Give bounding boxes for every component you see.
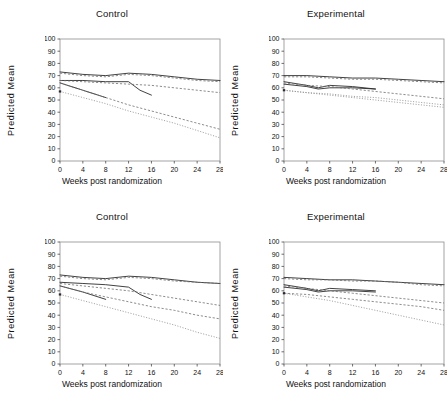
x-tick-label: 24	[417, 166, 425, 173]
x-axis-label: Weeks post randomization	[0, 379, 224, 389]
y-tick-label: 30	[272, 324, 280, 331]
y-axis-label: Predicted Mean	[4, 40, 18, 160]
y-tick-label: 70	[272, 275, 280, 282]
x-tick-label: 4	[305, 166, 309, 173]
x-tick-label: 12	[125, 166, 133, 173]
y-tick-label: 50	[48, 96, 56, 103]
y-tick-label: 70	[48, 275, 56, 282]
plot-svg: 01020304050607080901000481216202428	[45, 36, 223, 176]
x-tick-label: 28	[216, 166, 223, 173]
plot-frame	[284, 39, 444, 161]
y-tick-label: 70	[272, 72, 280, 79]
panel-title: Control	[0, 8, 224, 19]
series-line-curve-1-solid	[60, 72, 220, 81]
x-tick-label: 16	[148, 369, 156, 376]
y-tick-label: 10	[272, 145, 280, 152]
y-tick-label: 60	[48, 287, 56, 294]
panel-title: Control	[0, 211, 224, 222]
plot-svg: 01020304050607080901000481216202428	[269, 36, 447, 176]
y-tick-label: 20	[272, 133, 280, 140]
origin-marker	[59, 90, 61, 92]
x-tick-label: 0	[58, 369, 62, 376]
x-tick-label: 8	[104, 166, 108, 173]
y-tick-label: 70	[48, 72, 56, 79]
y-tick-label: 0	[276, 360, 280, 367]
x-tick-label: 20	[394, 369, 402, 376]
x-axis-label: Weeks post randomization	[224, 379, 448, 389]
origin-marker	[283, 89, 285, 91]
x-tick-label: 24	[193, 166, 201, 173]
y-tick-label: 30	[48, 324, 56, 331]
y-tick-label: 40	[272, 109, 280, 116]
x-tick-label: 28	[440, 166, 447, 173]
figure-grid: ControlPredicted MeanWeeks post randomiz…	[0, 0, 448, 406]
y-tick-label: 90	[48, 48, 56, 55]
series-line-curve-1-solid	[284, 76, 444, 82]
series-line-curve-4-solid-dip	[284, 287, 375, 292]
y-tick-label: 40	[272, 312, 280, 319]
x-tick-label: 8	[328, 369, 332, 376]
series-line-curve-7-dotted	[60, 294, 220, 338]
y-tick-label: 60	[48, 84, 56, 91]
panel-title: Experimental	[224, 8, 448, 19]
y-tick-label: 10	[272, 348, 280, 355]
x-tick-label: 0	[282, 166, 286, 173]
x-tick-label: 12	[349, 369, 357, 376]
y-tick-label: 80	[48, 60, 56, 67]
x-tick-label: 20	[170, 369, 178, 376]
plot-area: 01020304050607080901000481216202428	[269, 239, 429, 361]
x-tick-label: 8	[328, 166, 332, 173]
x-tick-label: 28	[216, 369, 223, 376]
y-tick-label: 80	[272, 263, 280, 270]
y-tick-label: 90	[48, 251, 56, 258]
panel-bottom-left: ControlPredicted MeanWeeks post randomiz…	[0, 203, 224, 406]
y-tick-label: 30	[272, 121, 280, 128]
origin-marker	[283, 292, 285, 294]
panel-title: Experimental	[224, 211, 448, 222]
plot-frame	[284, 242, 444, 364]
y-tick-label: 20	[48, 336, 56, 343]
x-tick-label: 28	[440, 369, 447, 376]
y-tick-label: 30	[48, 121, 56, 128]
y-tick-label: 80	[48, 263, 56, 270]
y-axis-label: Predicted Mean	[228, 243, 242, 363]
panel-top-right: ExperimentalPredicted MeanWeeks post ran…	[224, 0, 448, 203]
plot-area: 01020304050607080901000481216202428	[45, 36, 205, 158]
panel-top-left: ControlPredicted MeanWeeks post randomiz…	[0, 0, 224, 203]
x-tick-label: 24	[193, 369, 201, 376]
plot-frame	[60, 242, 220, 364]
series-line-curve-5-dashed	[284, 83, 444, 99]
x-tick-label: 12	[349, 166, 357, 173]
y-tick-label: 100	[45, 36, 56, 42]
y-tick-label: 20	[48, 133, 56, 140]
series-line-curve-7-dotted	[284, 293, 444, 325]
y-tick-label: 100	[269, 36, 280, 42]
x-tick-label: 0	[58, 166, 62, 173]
y-tick-label: 50	[272, 299, 280, 306]
x-tick-label: 0	[282, 369, 286, 376]
y-tick-label: 50	[48, 299, 56, 306]
y-tick-label: 100	[45, 239, 56, 245]
origin-marker	[59, 293, 61, 295]
x-tick-label: 16	[372, 369, 380, 376]
y-tick-label: 10	[48, 348, 56, 355]
x-tick-label: 8	[104, 369, 108, 376]
series-line-curve-6-dashed	[60, 286, 220, 319]
y-tick-label: 50	[272, 96, 280, 103]
x-axis-label: Weeks post randomization	[224, 176, 448, 186]
y-axis-label: Predicted Mean	[4, 243, 18, 363]
x-tick-label: 16	[148, 166, 156, 173]
y-tick-label: 60	[272, 287, 280, 294]
series-line-curve-5-solid-truncated	[60, 286, 106, 299]
x-tick-label: 4	[81, 369, 85, 376]
x-tick-label: 4	[81, 166, 85, 173]
y-tick-label: 90	[272, 48, 280, 55]
x-tick-label: 12	[125, 369, 133, 376]
y-tick-label: 40	[48, 109, 56, 116]
panel-bottom-right: ExperimentalPredicted MeanWeeks post ran…	[224, 203, 448, 406]
plot-svg: 01020304050607080901000481216202428	[269, 239, 447, 379]
x-axis-label: Weeks post randomization	[0, 176, 224, 186]
series-line-curve-7-dotted	[60, 91, 220, 137]
y-tick-label: 100	[269, 239, 280, 245]
y-tick-label: 0	[52, 360, 56, 367]
